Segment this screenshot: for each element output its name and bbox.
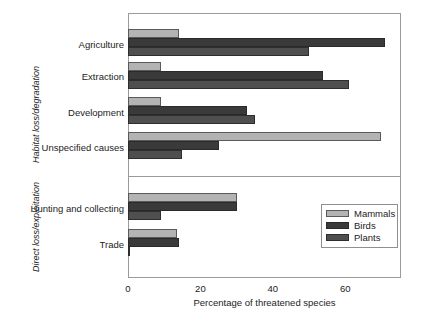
ytick-label: Unspecified causes bbox=[4, 143, 124, 153]
bar-birds bbox=[128, 238, 179, 247]
ytick-label: Extraction bbox=[4, 72, 124, 82]
panel-label-direct: Direct loss/exploitation bbox=[31, 182, 41, 272]
bar-birds bbox=[128, 38, 385, 47]
bar-birds bbox=[128, 202, 237, 211]
bar-plants bbox=[128, 80, 349, 89]
bar-plants bbox=[128, 47, 309, 56]
bar-birds bbox=[128, 106, 247, 115]
bar-mammals bbox=[128, 229, 177, 238]
xtick-label: 0 bbox=[125, 283, 130, 294]
bar-mammals bbox=[128, 193, 237, 202]
ytick-label: Hunting and collecting bbox=[4, 204, 124, 214]
bar-plants bbox=[128, 211, 161, 220]
xtick-label: 40 bbox=[268, 283, 279, 294]
bar-mammals bbox=[128, 97, 161, 106]
xtick-label: 60 bbox=[340, 283, 351, 294]
legend-label: Birds bbox=[354, 221, 376, 231]
ytick-label: Agriculture bbox=[4, 40, 124, 50]
bar-mammals bbox=[128, 62, 161, 71]
chart-legend[interactable]: Mammals Birds Plants bbox=[321, 204, 398, 248]
xtick-label: 20 bbox=[195, 283, 206, 294]
panel-divider bbox=[128, 176, 401, 177]
bar-plants bbox=[128, 150, 182, 159]
legend-swatch-icon bbox=[326, 222, 349, 229]
bar-plants bbox=[128, 247, 130, 256]
bar-birds bbox=[128, 71, 323, 80]
legend-label: Mammals bbox=[354, 209, 395, 219]
bar-birds bbox=[128, 141, 219, 150]
legend-label: Plants bbox=[354, 233, 380, 243]
chart-figure: Habitat loss/degradation Direct loss/exp… bbox=[0, 0, 430, 323]
ytick-label: Trade bbox=[4, 240, 124, 250]
legend-swatch-icon bbox=[326, 210, 349, 217]
xaxis-title: Percentage of threatened species bbox=[128, 297, 401, 308]
legend-item-mammals[interactable]: Mammals bbox=[326, 208, 393, 219]
legend-swatch-icon bbox=[326, 234, 349, 241]
legend-item-plants[interactable]: Plants bbox=[326, 232, 393, 243]
bar-mammals bbox=[128, 29, 179, 38]
bar-mammals bbox=[128, 132, 381, 141]
ytick-label: Development bbox=[4, 108, 124, 118]
legend-item-birds[interactable]: Birds bbox=[326, 220, 393, 231]
bar-plants bbox=[128, 115, 255, 124]
